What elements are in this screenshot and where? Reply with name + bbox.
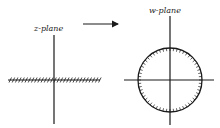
z-boundary-hatching [9, 78, 101, 83]
mapping-diagram: z-plane w-plane [0, 0, 220, 128]
w-plane-panel: w-plane [124, 6, 214, 125]
z-plane-panel: z-plane [8, 24, 101, 124]
w-plane-label: w-plane [149, 6, 181, 15]
z-plane-label: z-plane [33, 24, 64, 33]
